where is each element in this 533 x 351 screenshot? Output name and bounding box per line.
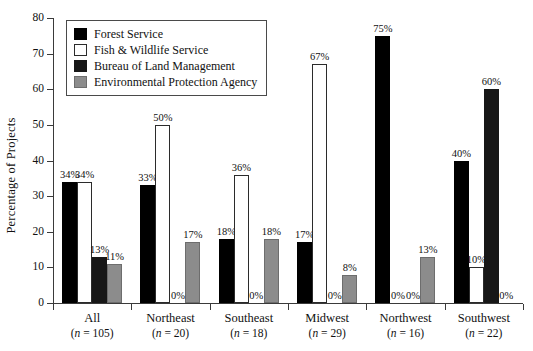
y-axis-tick-label: 0 [4,297,44,308]
bar-value-label: 11% [100,251,129,262]
bar[interactable] [484,89,499,303]
x-axis-category-label: Southwest(n = 22) [445,311,523,341]
category-sample-size: (n = 20) [131,326,209,341]
x-axis-tick [288,304,289,310]
bar[interactable] [264,239,279,303]
bar-chart: Percentage of Projects 01020304050607080… [0,0,533,351]
bar-value-label: 67% [305,51,334,62]
legend-item[interactable]: Forest Service [74,26,257,42]
bar-value-label: 0% [492,290,521,301]
category-sample-size: (n = 16) [366,326,444,341]
bar[interactable] [342,275,357,304]
category-name: All [53,311,131,326]
category-sample-size: (n = 105) [53,326,131,341]
category-name: Southeast [210,311,288,326]
x-axis-tick [53,304,54,310]
legend-swatch [74,44,87,56]
bar[interactable] [219,239,234,303]
bar-group: 17%67%0%8% [288,18,366,303]
category-name: Southwest [445,311,523,326]
x-axis-category-label: All(n = 105) [53,311,131,341]
category-sample-size: (n = 29) [288,326,366,341]
bar[interactable] [454,161,469,304]
bar-group: 75%0%0%13% [366,18,444,303]
legend-label: Environmental Protection Agency [94,75,257,89]
x-axis-tick [210,304,211,310]
bar[interactable] [155,125,170,303]
category-name: Northeast [131,311,209,326]
x-axis-tick [445,304,446,310]
bar[interactable] [77,182,92,303]
bar[interactable] [420,257,435,303]
bar[interactable] [92,257,107,303]
y-axis-tick-label: 10 [4,261,44,272]
bar[interactable] [62,182,77,303]
bar[interactable] [234,175,249,303]
category-sample-size: (n = 18) [210,326,288,341]
legend-swatch [74,28,87,40]
x-axis-tick [366,304,367,310]
bar-value-label: 60% [477,76,506,87]
legend-label: Fish & Wildlife Service [94,43,208,57]
legend-item[interactable]: Environmental Protection Agency [74,74,257,90]
bar-value-label: 8% [335,262,364,273]
y-axis-tick-label: 60 [4,83,44,94]
legend-item[interactable]: Bureau of Land Management [74,58,257,74]
chart-legend: Forest ServiceFish & Wildlife ServiceBur… [66,20,267,96]
x-axis-category-label: Northwest(n = 16) [366,311,444,341]
y-axis-tick-label: 50 [4,119,44,130]
bar-value-label: 50% [148,112,177,123]
bar[interactable] [375,36,390,303]
legend-label: Bureau of Land Management [94,59,235,73]
category-name: Midwest [288,311,366,326]
bar[interactable] [140,185,155,303]
x-axis-category-label: Northeast(n = 20) [131,311,209,341]
legend-swatch [74,76,87,88]
legend-label: Forest Service [94,27,163,41]
bar-value-label: 40% [447,148,476,159]
bar-value-label: 36% [227,162,256,173]
bar-group: 40%10%60%0% [445,18,523,303]
bar-value-label: 17% [178,229,207,240]
legend-swatch [74,60,87,72]
x-axis-tick [131,304,132,310]
x-axis-category-label: Southeast(n = 18) [210,311,288,341]
bar[interactable] [185,242,200,303]
y-axis-tick-label: 40 [4,155,44,166]
x-axis-tick [523,304,524,310]
bar[interactable] [107,264,122,303]
y-axis-tick-label: 30 [4,190,44,201]
bar-value-label: 18% [257,226,286,237]
bar[interactable] [469,267,484,303]
legend-item[interactable]: Fish & Wildlife Service [74,42,257,58]
x-axis-category-label: Midwest(n = 29) [288,311,366,341]
category-sample-size: (n = 22) [445,326,523,341]
bar-value-label: 34% [70,169,99,180]
y-axis-tick-label: 20 [4,226,44,237]
y-axis-tick-label: 80 [4,12,44,23]
category-name: Northwest [366,311,444,326]
y-axis-tick-label: 70 [4,48,44,59]
bar-value-label: 13% [413,244,442,255]
bar-value-label: 75% [368,23,397,34]
bar[interactable] [312,64,327,303]
bar[interactable] [297,242,312,303]
